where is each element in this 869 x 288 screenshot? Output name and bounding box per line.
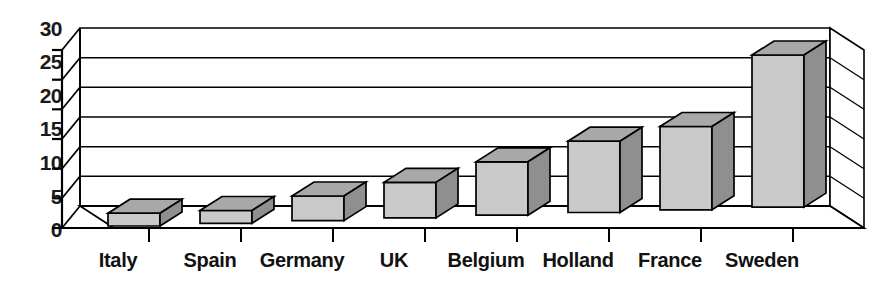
tick-connector-5	[62, 176, 80, 198]
bar-front-face	[568, 141, 620, 212]
bar-holland	[568, 127, 642, 212]
bar-front-face	[476, 162, 528, 215]
bar-side-face	[804, 41, 826, 207]
tick-connector-0	[62, 206, 80, 228]
bar-belgium	[476, 148, 550, 215]
tick-connector-25	[62, 58, 80, 80]
bar-front-face	[108, 213, 160, 226]
bar-france	[660, 113, 734, 210]
bar-front-face	[292, 196, 344, 221]
bar-sweden	[752, 41, 826, 207]
bar-side-face	[620, 127, 642, 212]
axis-tick-connectors	[62, 28, 80, 228]
bar-front-face	[200, 211, 252, 224]
tick-connector-20	[62, 87, 80, 109]
x-axis-ticks	[149, 228, 793, 242]
bar-front-face	[752, 55, 804, 207]
bar-chart: 30 25 20 15 10 5 0	[0, 0, 869, 288]
plot-area	[0, 0, 869, 288]
x-axis-label-sweden: Sweden	[707, 250, 817, 270]
bar-side-face	[712, 113, 734, 210]
y-axis-ticks	[52, 50, 62, 228]
floor	[80, 206, 864, 228]
tick-connector-15	[62, 117, 80, 139]
bar-front-face	[660, 127, 712, 210]
bar-front-face	[384, 182, 436, 218]
bar-uk	[384, 168, 458, 218]
tick-connector-30	[62, 28, 80, 50]
tick-connector-10	[62, 147, 80, 169]
